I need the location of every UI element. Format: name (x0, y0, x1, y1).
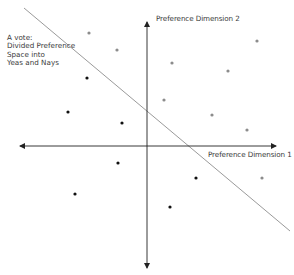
nay-point (66, 110, 69, 113)
nay-point (85, 76, 88, 79)
nay-point (168, 205, 171, 208)
yea-point (260, 176, 263, 179)
vote-annotation-line: Yeas and Nays (7, 59, 75, 67)
x-axis-label: Preference Dimension 1 (208, 150, 292, 159)
yea-point (87, 31, 90, 34)
yea-point (170, 61, 173, 64)
yea-point (115, 48, 118, 51)
legislator-points (66, 31, 263, 208)
yea-point (210, 113, 213, 116)
nay-point (194, 176, 197, 179)
yea-point (162, 98, 165, 101)
yea-point (255, 39, 258, 42)
vote-annotation: A vote: Divided Preference Space into Ye… (7, 34, 75, 67)
yea-point (226, 69, 229, 72)
y-axis-label: Preference Dimension 2 (156, 14, 240, 23)
nay-point (73, 192, 76, 195)
yea-point (245, 128, 248, 131)
nay-point (120, 121, 123, 124)
nay-point (116, 161, 119, 164)
